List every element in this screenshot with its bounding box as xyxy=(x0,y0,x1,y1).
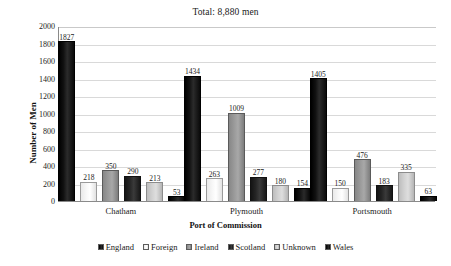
bar-rect[interactable]: 350 xyxy=(102,170,119,201)
chart-legend: EnglandForeignIrelandScotlandUnknownWale… xyxy=(0,243,451,252)
bar-rect[interactable]: 218 xyxy=(80,182,97,201)
bar-rect[interactable]: 1827 xyxy=(58,41,75,201)
bar-plymouth-england[interactable]: 1434 xyxy=(184,26,201,201)
legend-item-wales[interactable]: Wales xyxy=(325,243,354,252)
bar-rect[interactable]: 154 xyxy=(294,188,311,201)
y-axis-tick-label: 1600 xyxy=(15,58,55,66)
bar-plymouth-ireland[interactable]: 1009 xyxy=(228,26,245,201)
bar-portsmouth-unknown[interactable]: 335 xyxy=(398,26,415,201)
bar-plymouth-scotland[interactable]: 277 xyxy=(250,26,267,201)
bar-rect[interactable]: 476 xyxy=(354,159,371,201)
y-axis-tick-label: 400 xyxy=(15,163,55,171)
legend-swatch-wales xyxy=(325,244,331,250)
legend-item-england[interactable]: England xyxy=(98,243,134,252)
bar-chatham-unknown[interactable]: 213 xyxy=(146,26,163,201)
bar-value-label: 335 xyxy=(401,164,412,172)
legend-swatch-foreign xyxy=(143,244,149,250)
bar-rect[interactable]: 213 xyxy=(146,182,163,201)
legend-swatch-unknown xyxy=(274,244,280,250)
y-axis-tick-label: 0 xyxy=(15,198,55,206)
bar-portsmouth-foreign[interactable]: 150 xyxy=(332,26,349,201)
bar-chatham-wales[interactable]: 53 xyxy=(168,26,185,201)
bar-chatham-scotland[interactable]: 290 xyxy=(124,26,141,201)
bar-rect[interactable]: 1405 xyxy=(310,78,327,201)
y-axis-tick-label: 200 xyxy=(15,181,55,189)
x-axis-label-chatham: Chatham xyxy=(58,206,184,216)
bar-value-label: 213 xyxy=(149,175,160,183)
legend-label-ireland: Ireland xyxy=(194,243,218,252)
bar-value-label: 180 xyxy=(275,178,286,186)
bar-portsmouth-wales[interactable]: 63 xyxy=(420,26,437,201)
bar-rect[interactable]: 290 xyxy=(124,176,141,201)
bar-rect[interactable]: 180 xyxy=(272,185,289,201)
bar-value-label: 290 xyxy=(127,168,138,176)
bar-portsmouth-scotland[interactable]: 183 xyxy=(376,26,393,201)
bar-chart: Total: 8,880 men Number of Men 200018001… xyxy=(0,0,451,266)
bar-rect[interactable]: 335 xyxy=(398,172,415,201)
legend-item-foreign[interactable]: Foreign xyxy=(143,243,177,252)
chart-title: Total: 8,880 men xyxy=(0,7,451,17)
y-axis-tick-label: 800 xyxy=(15,128,55,136)
legend-item-scotland[interactable]: Scotland xyxy=(228,243,266,252)
bar-rect[interactable]: 263 xyxy=(206,178,223,201)
bar-rect[interactable]: 1434 xyxy=(184,76,201,201)
legend-label-scotland: Scotland xyxy=(236,243,266,252)
plot-area: 1827218350290213531434263100927718015414… xyxy=(58,27,435,202)
y-axis-tick-label: 1200 xyxy=(15,93,55,101)
bar-value-label: 1434 xyxy=(185,68,200,76)
bar-value-label: 1827 xyxy=(59,34,74,42)
bar-rect[interactable]: 277 xyxy=(250,177,267,201)
bar-plymouth-foreign[interactable]: 263 xyxy=(206,26,223,201)
bar-group-chatham: 182721835029021353 xyxy=(59,26,185,201)
bar-chatham-england[interactable]: 1827 xyxy=(58,26,75,201)
x-axis-title: Port of Commission xyxy=(0,220,451,230)
legend-label-unknown: Unknown xyxy=(282,243,316,252)
bar-value-label: 183 xyxy=(379,178,390,186)
legend-item-unknown[interactable]: Unknown xyxy=(274,243,316,252)
bar-value-label: 350 xyxy=(105,163,116,171)
bar-rect[interactable]: 150 xyxy=(332,188,349,201)
y-axis-tick-label: 1000 xyxy=(15,111,55,119)
legend-item-ireland[interactable]: Ireland xyxy=(186,243,218,252)
bar-plymouth-wales[interactable]: 154 xyxy=(294,26,311,201)
legend-label-england: England xyxy=(106,243,134,252)
x-axis-label-plymouth: Plymouth xyxy=(184,206,310,216)
y-axis-tick-label: 1400 xyxy=(15,76,55,84)
bar-value-label: 154 xyxy=(297,180,308,188)
legend-label-wales: Wales xyxy=(333,243,354,252)
bar-portsmouth-ireland[interactable]: 476 xyxy=(354,26,371,201)
legend-swatch-ireland xyxy=(186,244,192,250)
y-axis-tick-label: 600 xyxy=(15,146,55,154)
legend-swatch-scotland xyxy=(228,244,234,250)
bar-value-label: 150 xyxy=(335,180,346,188)
y-axis-tick-label: 1800 xyxy=(15,41,55,49)
bar-value-label: 263 xyxy=(209,171,220,179)
bar-value-label: 476 xyxy=(357,152,368,160)
bar-group-portsmouth: 140515047618333563 xyxy=(310,26,436,201)
bar-rect[interactable]: 53 xyxy=(168,196,185,201)
y-axis-tick-label: 2000 xyxy=(15,23,55,31)
bar-rect[interactable]: 183 xyxy=(376,185,393,201)
bar-portsmouth-england[interactable]: 1405 xyxy=(310,26,327,201)
legend-label-foreign: Foreign xyxy=(151,243,177,252)
bar-value-label: 53 xyxy=(173,189,181,197)
bar-chatham-foreign[interactable]: 218 xyxy=(80,26,97,201)
bar-value-label: 1405 xyxy=(311,71,326,79)
bar-value-label: 63 xyxy=(424,188,432,196)
bar-rect[interactable]: 63 xyxy=(420,196,437,202)
bar-value-label: 218 xyxy=(83,174,94,182)
x-axis-label-portsmouth: Portsmouth xyxy=(309,206,435,216)
bar-rect[interactable]: 1009 xyxy=(228,113,245,201)
bar-value-label: 277 xyxy=(253,169,264,177)
legend-swatch-england xyxy=(98,244,104,250)
bar-plymouth-unknown[interactable]: 180 xyxy=(272,26,289,201)
bar-value-label: 1009 xyxy=(229,105,244,113)
bar-chatham-ireland[interactable]: 350 xyxy=(102,26,119,201)
bar-group-plymouth: 14342631009277180154 xyxy=(185,26,311,201)
